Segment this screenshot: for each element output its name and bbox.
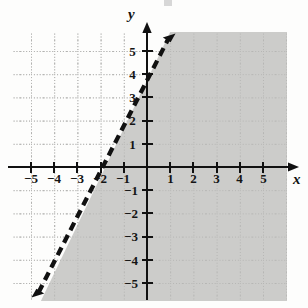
x-tick-label--4: −4 [45,172,63,185]
y-tick-label-2: 2 [126,114,139,127]
x-tick-label-2: 2 [187,172,200,185]
x-tick-label--5: −5 [22,172,40,185]
y-tick-label--4: −4 [122,254,140,267]
y-tick-label-4: 4 [126,68,139,81]
y-tick-label-1: 1 [126,138,139,151]
x-tick-label-3: 3 [210,172,223,185]
graph-figure: −5 −4 −3 −2 −1 1 2 3 4 5 5 4 3 2 1 −1 −2… [0,0,308,308]
x-tick-label-5: 5 [257,172,270,185]
y-axis-name: y [128,7,135,22]
y-tick-label-3: 3 [126,91,139,104]
scan-artifact [164,0,172,6]
y-tick-label-5: 5 [126,45,139,58]
x-axis-name: x [293,172,301,187]
x-tick-label--3: −3 [68,172,86,185]
y-tick-label--2: −2 [122,207,140,220]
x-tick-label-1: 1 [164,172,177,185]
y-tick-label--1: −1 [122,184,140,197]
y-tick-label--3: −3 [122,230,140,243]
x-tick-label-4: 4 [233,172,246,185]
coordinate-plane [0,0,308,308]
y-tick-label--5: −5 [122,277,140,290]
x-tick-label--2: −2 [91,172,109,185]
